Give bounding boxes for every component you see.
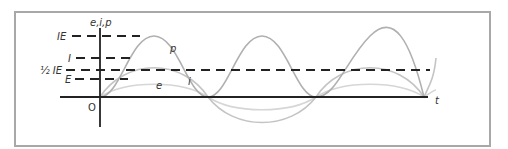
i-label: I [68,53,71,64]
curve-i [100,58,436,123]
curve-p [100,27,424,97]
curve-p-label: p [169,43,176,54]
y-axis-label: e,i,p [90,17,112,28]
curve-e-label: e [156,80,162,91]
half-ie-label: ½ IE [40,65,63,76]
origin-label: O [88,102,96,113]
ie-label: IE [57,31,67,42]
x-axis-label: t [435,95,440,106]
power-waveform-diagram: e,i,p t O IE I ½ IE E p i e [0,0,508,149]
curve-i-label: i [188,76,191,87]
e-label: E [65,74,72,85]
